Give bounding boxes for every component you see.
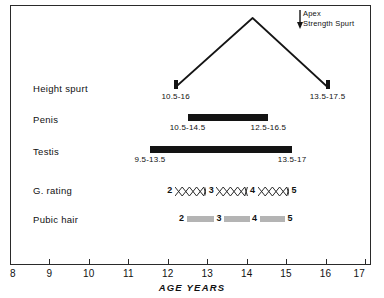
pubic-hair-stage-5: 5 — [288, 213, 293, 223]
caption-height-spurt-1: 13.5-17.5 — [310, 92, 346, 101]
bar-testis — [150, 146, 292, 153]
x-tick-label-9: 9 — [47, 268, 53, 279]
x-tick-16 — [326, 259, 327, 265]
growth-sequence-chart: Apex Strength Spurt Height spurt Penis T… — [0, 0, 384, 298]
g-rating-stage-4: 4 — [250, 185, 255, 195]
g-rating-stage-5: 5 — [291, 185, 296, 195]
g-rating-stage-3: 3 — [209, 185, 214, 195]
x-tick-label-13: 13 — [201, 268, 213, 279]
pubic-hair-stage-3: 3 — [217, 213, 222, 223]
pubic-hair-segment-3 — [224, 216, 250, 222]
caption-height-spurt-0: 10.5-16 — [161, 92, 190, 101]
caption-penis-1: 12.5-16.5 — [251, 123, 287, 132]
x-tick-label-16: 16 — [320, 268, 332, 279]
x-axis-title: AGE YEARS — [0, 282, 384, 293]
caption-testis-0: 9.5-13.5 — [135, 155, 166, 164]
x-tick-label-14: 14 — [241, 268, 253, 279]
g-rating-hatch-4 — [258, 187, 289, 196]
g-rating-hatch-2 — [175, 187, 206, 196]
caption-penis-0: 10.5-14.5 — [170, 123, 206, 132]
x-tick-label-15: 15 — [280, 268, 292, 279]
x-tick-15 — [286, 259, 287, 265]
x-tick-label-8: 8 — [10, 268, 16, 279]
x-tick-label-12: 12 — [162, 268, 174, 279]
pubic-hair-stage-2: 2 — [179, 213, 184, 223]
x-tick-label-17: 17 — [353, 268, 365, 279]
x-tick-14 — [247, 259, 248, 265]
g-rating-hatch-3 — [216, 187, 247, 196]
x-tick-9 — [49, 259, 50, 265]
pubic-hair-segment-2 — [187, 216, 214, 222]
x-tick-17 — [365, 259, 366, 265]
g-rating-stage-2: 2 — [167, 185, 172, 195]
pubic-hair-stage-4: 4 — [252, 213, 257, 223]
x-tick-label-11: 11 — [123, 268, 134, 279]
x-tick-label-10: 10 — [83, 268, 95, 279]
caption-testis-1: 13.5-17 — [278, 155, 307, 164]
x-tick-11 — [128, 259, 129, 265]
x-tick-13 — [207, 259, 208, 265]
x-tick-8 — [10, 259, 11, 265]
x-tick-10 — [89, 259, 90, 265]
bar-penis — [188, 114, 269, 121]
curve-end-marker — [326, 80, 330, 89]
pubic-hair-segment-4 — [260, 216, 286, 222]
curve-start-marker — [174, 80, 178, 89]
x-tick-12 — [168, 259, 169, 265]
